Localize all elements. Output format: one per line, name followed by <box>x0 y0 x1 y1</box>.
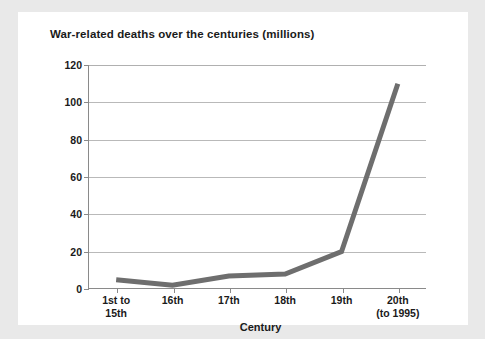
x-tick-label-4: 19th <box>331 294 353 307</box>
x-tick-label-line1: 20th <box>387 294 409 306</box>
chart-page: War-related deaths over the centuries (m… <box>0 0 485 339</box>
y-tick-label-40: 40 <box>70 208 82 220</box>
plot-area-wrapper <box>88 65 426 289</box>
x-tick-label-line2: 15th <box>102 307 130 320</box>
chart-title: War-related deaths over the centuries (m… <box>50 28 314 40</box>
x-tick-label-2: 17th <box>218 294 240 307</box>
y-tick-label-0: 0 <box>76 283 82 295</box>
x-tick-label-line1: 1st to <box>102 294 130 306</box>
y-axis: 120100806040200 <box>52 65 82 289</box>
x-tick-label-0: 1st to15th <box>102 294 130 320</box>
y-tick-label-80: 80 <box>70 134 82 146</box>
x-tick-label-line1: 17th <box>218 294 240 306</box>
chart-card: War-related deaths over the centuries (m… <box>18 12 468 325</box>
series-line-war-deaths <box>88 65 426 289</box>
x-tick-label-3: 18th <box>274 294 296 307</box>
y-tick-label-20: 20 <box>70 246 82 258</box>
x-tick-label-line1: 19th <box>331 294 353 306</box>
x-tick-label-line1: 18th <box>274 294 296 306</box>
x-tick-label-line2: (to 1995) <box>376 307 419 320</box>
y-tick-label-100: 100 <box>64 96 82 108</box>
x-tick-label-line1: 16th <box>162 294 184 306</box>
y-tick-mark-0 <box>84 289 89 290</box>
x-tick-label-5: 20th(to 1995) <box>376 294 419 320</box>
x-tick-label-1: 16th <box>162 294 184 307</box>
y-tick-label-60: 60 <box>70 171 82 183</box>
x-axis-title: Century <box>18 321 485 333</box>
y-tick-label-120: 120 <box>64 59 82 71</box>
